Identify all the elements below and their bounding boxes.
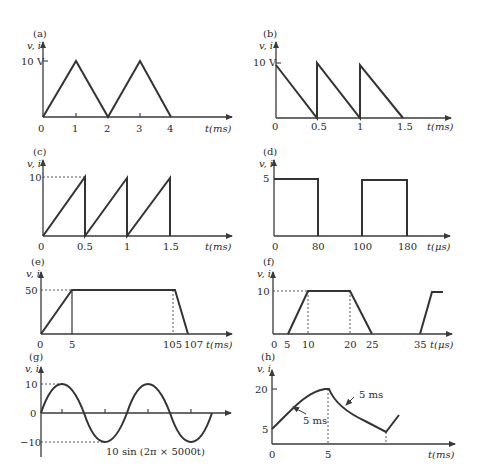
x-axis-label: t(ms): [205, 123, 232, 134]
x-tick-label: 107: [184, 339, 203, 350]
panel-label: (g): [29, 351, 43, 362]
y-tick-label: −10: [20, 437, 41, 448]
x-tick-label: 1.5: [397, 121, 413, 132]
y-axis-label: v, i: [26, 268, 40, 279]
trapezoid-waveform: [288, 291, 372, 334]
x-tick-label: 25: [366, 339, 379, 350]
time-constant-label: 5 ms: [303, 415, 327, 426]
x-tick-label: 0: [38, 241, 44, 252]
y-axis-label: v, i: [259, 40, 273, 51]
panel-a: (a) v, i 10 V 0 1 2 3 4 t(ms): [21, 28, 232, 134]
y-axis-label: v, i: [25, 363, 39, 374]
panel-c: (c) v, i 10 0 0.5 1 1.5 t(ms): [27, 146, 232, 252]
y-tick-label: 10 V: [253, 57, 277, 68]
x-tick-label: 0: [272, 121, 278, 132]
x-tick-label: 35: [414, 339, 427, 350]
panel-d: (d) v, i 5 0 80 100 180 t(μs): [259, 146, 451, 252]
y-tick-label: 50: [25, 285, 38, 296]
y-tick-label: 0: [30, 408, 36, 419]
y-axis-label: v, i: [257, 268, 271, 279]
y-tick-label: 5: [263, 173, 269, 184]
x-tick-label: 0: [37, 339, 43, 350]
y-axis-label: v, i: [27, 158, 41, 169]
x-tick-label: 0.5: [77, 241, 93, 252]
y-axis-label: v, i: [257, 363, 271, 374]
x-axis-label: t(ms): [427, 121, 454, 132]
x-tick-label: 2: [104, 123, 110, 134]
x-tick-label: 80: [312, 241, 325, 252]
y-tick-label: 10 V: [21, 56, 45, 67]
x-tick-label: 0.5: [311, 121, 327, 132]
panel-label: (d): [263, 146, 277, 157]
x-tick-label: 1.5: [163, 241, 179, 252]
x-axis-label: t(μs): [427, 241, 451, 252]
y-tick-label: 20: [255, 384, 268, 395]
x-tick-label: 105: [163, 339, 182, 350]
y-tick-label: 10: [257, 286, 270, 297]
x-tick-label: 10: [302, 339, 315, 350]
panel-label: (c): [33, 146, 47, 157]
panel-label: (a): [33, 28, 47, 39]
x-tick-label: 5: [69, 339, 75, 350]
sawtooth-up-waveform: [43, 177, 170, 236]
x-tick-label: 3: [136, 123, 142, 134]
panel-e: (e) v, i 50 0 5 105 107 t(ms): [25, 256, 233, 350]
x-tick-label: 20: [344, 339, 357, 350]
x-tick-label: 180: [398, 241, 417, 252]
panel-b: (b) v, i 10 V 0 0.5 1 1.5 t(ms): [253, 28, 454, 132]
trapezoid-waveform: [41, 290, 188, 334]
panel-label: (b): [263, 28, 277, 39]
pulse-waveform: [274, 179, 318, 236]
time-constant-label: 5 ms: [359, 389, 383, 400]
triangle-waveform: [43, 61, 171, 117]
y-axis-label: v, i: [27, 40, 41, 51]
x-axis-label: t(ms): [205, 241, 232, 252]
x-tick-label: 1: [124, 241, 130, 252]
waveform-figure: (a) v, i 10 V 0 1 2 3 4 t(ms) (b) v, i 1…: [0, 0, 479, 476]
y-tick-label: 10: [25, 379, 38, 390]
y-tick-label: 5: [262, 424, 268, 435]
panel-label: (h): [261, 351, 275, 362]
panel-f: (f) v, i 10 0 5 10 20 25 35 t(μs): [257, 256, 454, 350]
sawtooth-down-waveform: [276, 63, 403, 118]
x-tick-label: 4: [167, 123, 173, 134]
x-tick-label: 0: [269, 449, 275, 460]
x-tick-label: 0: [271, 339, 277, 350]
x-tick-label: 5: [284, 339, 290, 350]
x-axis-label: t(ms): [428, 449, 455, 460]
x-tick-label: 1: [357, 121, 363, 132]
pulse-waveform: [362, 180, 407, 236]
y-axis-label: v, i: [259, 158, 273, 169]
x-tick-label: 0: [38, 123, 44, 134]
x-tick-label: 100: [353, 241, 372, 252]
x-axis-label: t(μs): [430, 339, 454, 350]
panel-g: (g) v, i 10 0 −10 10 sin (2π × 5000t): [20, 351, 231, 457]
y-tick-label: 10: [29, 172, 42, 183]
panel-h: (h) v, i 20 5 5 ms 5 ms 0 5 t(ms): [255, 351, 455, 460]
x-tick-label: 5: [325, 449, 331, 460]
panel-label: (e): [31, 256, 45, 267]
x-tick-label: 1: [72, 123, 78, 134]
x-axis-label: t(ms): [206, 339, 233, 350]
x-tick-label: 0: [272, 241, 278, 252]
trapezoid-waveform: [420, 292, 443, 334]
panel-label: (f): [263, 256, 275, 267]
sine-formula: 10 sin (2π × 5000t): [106, 446, 205, 457]
